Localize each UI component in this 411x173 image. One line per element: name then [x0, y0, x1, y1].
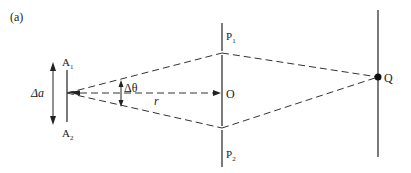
angle-label: Δθ [124, 81, 138, 95]
source-size-arrow [50, 62, 56, 125]
slit-top-label: P1 [226, 30, 236, 45]
observation-point-dot [375, 74, 382, 81]
source-top-label: A1 [62, 56, 74, 71]
source-size-label: Δa [30, 86, 44, 100]
source-bottom-label: A2 [62, 127, 74, 142]
center-label: O [226, 87, 235, 101]
distance-label: r [154, 94, 159, 108]
slit-bottom-label: P2 [226, 148, 236, 163]
double-slit-diagram: (a) Δa A1 A2 Δθ r P1 P2 O Q [0, 0, 411, 173]
panel-label: (a) [10, 10, 23, 24]
observation-point-label: Q [384, 71, 393, 85]
